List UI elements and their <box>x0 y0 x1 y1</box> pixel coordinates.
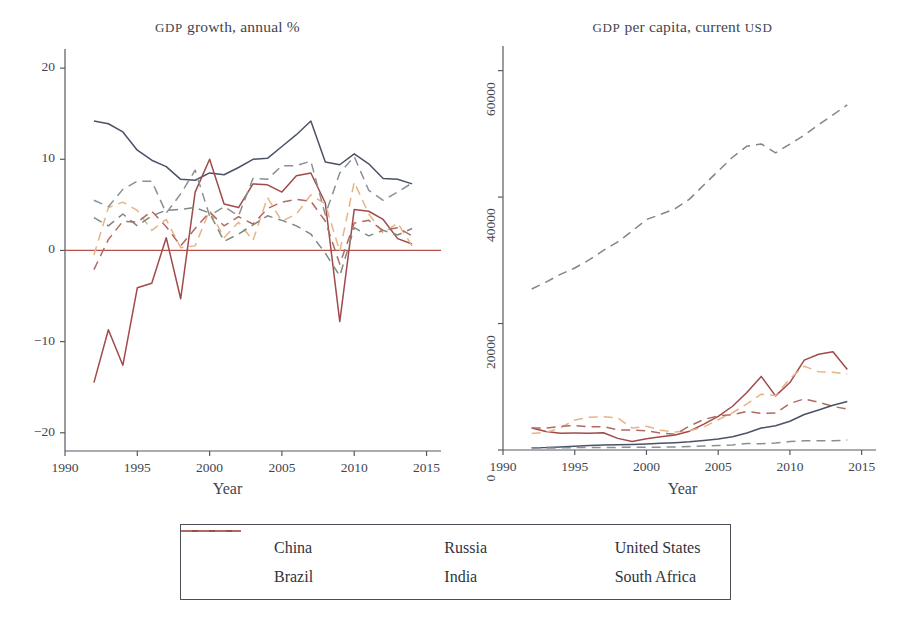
legend-item-south-africa[interactable]: South Africa <box>546 568 716 586</box>
legend-swatch-icon <box>375 542 435 554</box>
series-line-china <box>94 121 412 184</box>
y-tick-label: 60000 <box>483 70 499 128</box>
legend-swatch-icon <box>375 571 435 583</box>
chart-panel-gdp-growth: GDP growth, annual % Year −20−1001020199… <box>0 0 455 510</box>
legend-swatch-icon <box>205 571 265 583</box>
series-line-india <box>94 157 412 216</box>
y-tick-label: −10 <box>11 333 55 349</box>
chart-panel-gdp-per-capita: GDP per capita, current USD Year 0200004… <box>455 0 910 510</box>
y-tick-label: 10 <box>11 150 55 166</box>
legend-label: Russia <box>444 539 487 557</box>
y-tick-label: 20 <box>11 59 55 75</box>
x-tick-label: 2015 <box>832 459 892 475</box>
y-tick-label: 0 <box>11 241 55 257</box>
y-tick-label: −20 <box>11 424 55 440</box>
x-tick-label: 2010 <box>324 460 384 476</box>
x-tick-label: 1990 <box>35 460 95 476</box>
legend-label: China <box>274 539 312 557</box>
x-tick-label: 2000 <box>180 460 240 476</box>
legend-label: Brazil <box>274 568 313 586</box>
legend-item-united-states[interactable]: United States <box>546 539 716 557</box>
series-line-russia <box>532 352 848 442</box>
x-axis-label-right: Year <box>455 480 910 498</box>
series-line-russia <box>94 159 412 382</box>
series-line-united-states <box>532 105 848 289</box>
legend-swatch-icon <box>205 542 265 554</box>
chart-legend: ChinaRussiaUnited StatesBrazilIndiaSouth… <box>180 524 731 600</box>
series-line-china <box>532 401 848 447</box>
x-tick-label: 1995 <box>107 460 167 476</box>
x-axis-label-left: Year <box>0 480 455 498</box>
x-tick-label: 1990 <box>473 459 533 475</box>
x-tick-label: 2000 <box>616 459 676 475</box>
legend-label: United States <box>615 539 701 557</box>
x-tick-label: 2005 <box>688 459 748 475</box>
legend-item-russia[interactable]: Russia <box>375 539 545 557</box>
x-tick-label: 2010 <box>760 459 820 475</box>
series-line-south-africa <box>94 199 412 269</box>
legend-swatch-icon <box>546 542 606 554</box>
legend-swatch-icon <box>546 571 606 583</box>
plot-area-gdp-growth <box>0 0 455 510</box>
legend-grid: ChinaRussiaUnited StatesBrazilIndiaSouth… <box>181 525 730 599</box>
y-tick-label: 0 <box>483 449 499 507</box>
x-tick-label: 2005 <box>252 460 312 476</box>
x-tick-label: 2015 <box>397 460 457 476</box>
y-tick-label: 20000 <box>483 323 499 381</box>
legend-item-brazil[interactable]: Brazil <box>205 568 375 586</box>
legend-label: India <box>444 568 477 586</box>
figure-root: GDP growth, annual % Year −20−1001020199… <box>0 0 910 622</box>
legend-label: South Africa <box>615 568 696 586</box>
series-line-united-states <box>94 208 412 276</box>
y-tick-label: 40000 <box>483 196 499 254</box>
x-tick-label: 1995 <box>545 459 605 475</box>
legend-item-india[interactable]: India <box>375 568 545 586</box>
legend-item-china[interactable]: China <box>205 539 375 557</box>
plot-area-gdp-per-capita <box>455 0 910 510</box>
